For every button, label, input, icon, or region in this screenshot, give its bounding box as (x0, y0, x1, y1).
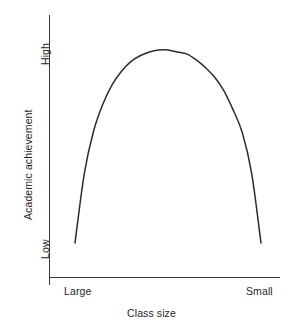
x-axis-tick-label-small: Small (246, 286, 273, 297)
y-axis-title: Academic achievement (23, 109, 34, 220)
y-axis-tick-label-high: High (40, 43, 51, 65)
achievement-curve (75, 50, 261, 243)
x-axis-title: Class size (0, 308, 303, 319)
x-axis-tick-label-large: Large (64, 286, 91, 297)
y-axis-tick-label-low: Low (40, 239, 51, 259)
chart-figure: High Low Academic achievement Large Smal… (0, 0, 303, 331)
